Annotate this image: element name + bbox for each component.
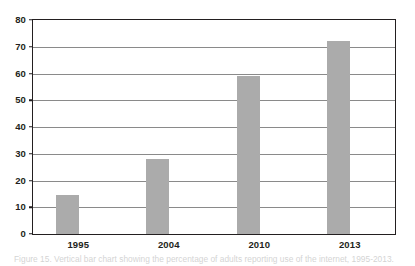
bar — [56, 195, 79, 234]
y-axis-tick-label: 0 — [21, 229, 26, 239]
x-axis-tick-label: 2004 — [158, 239, 180, 250]
plot-area: 01020304050607080 1995200420102013 — [32, 19, 396, 235]
y-axis-tick-mark — [29, 73, 33, 74]
x-axis-tick-label: 2010 — [248, 239, 270, 250]
figure: 01020304050607080 1995200420102013 Figur… — [0, 0, 415, 266]
y-axis-tick: 70 — [15, 42, 33, 52]
y-axis-tick-mark — [29, 153, 33, 154]
y-axis-tick: 10 — [15, 203, 33, 213]
y-axis-tick-label: 20 — [15, 176, 26, 186]
bar-chart: 01020304050607080 1995200420102013 — [0, 0, 415, 250]
bar — [327, 41, 350, 234]
y-axis-tick-label: 10 — [15, 203, 26, 213]
figure-caption: Figure 15. Vertical bar chart showing th… — [14, 254, 408, 266]
y-axis-tick: 40 — [15, 122, 33, 132]
y-axis-tick: 30 — [15, 149, 33, 159]
y-axis-tick-mark — [29, 207, 33, 208]
y-axis-tick-mark — [29, 100, 33, 101]
y-axis-tick: 0 — [21, 229, 33, 239]
y-axis-tick-mark — [29, 126, 33, 127]
y-axis-tick-label: 60 — [15, 69, 26, 79]
bar — [146, 159, 169, 234]
y-axis-tick-mark — [29, 233, 33, 234]
bar — [237, 76, 260, 234]
y-axis-tick: 20 — [15, 176, 33, 186]
y-axis-tick-label: 50 — [15, 96, 26, 106]
y-axis-tick-mark — [29, 46, 33, 47]
x-axis-tick-label: 1995 — [67, 239, 89, 250]
y-axis-tick-mark — [29, 180, 33, 181]
y-axis-tick-label: 40 — [15, 122, 26, 132]
y-axis-tick-label: 80 — [15, 15, 26, 25]
y-axis-tick: 60 — [15, 69, 33, 79]
y-axis-tick: 50 — [15, 96, 33, 106]
y-axis-tick-mark — [29, 19, 33, 20]
y-axis-tick-label: 30 — [15, 149, 26, 159]
y-axis-tick: 80 — [15, 15, 33, 25]
y-axis-tick-label: 70 — [15, 42, 26, 52]
x-axis-tick-label: 2013 — [339, 239, 361, 250]
